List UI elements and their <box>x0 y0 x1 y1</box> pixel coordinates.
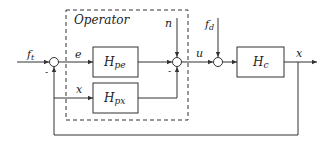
sum2-minus-sign: - <box>168 66 171 76</box>
summing-junction-2 <box>173 58 182 67</box>
sum1-minus-sign: - <box>45 67 48 77</box>
signal-x-input-label: x <box>76 83 83 96</box>
signal-x-output-label: x <box>296 47 303 60</box>
signal-fd-label: fd <box>204 18 214 32</box>
summing-junction-3 <box>214 58 223 67</box>
signal-e-label: e <box>75 48 82 61</box>
block-diagram: Operator ft - e Hpe - x Hpx n u fd Hc x <box>0 0 333 143</box>
signal-ft-label: ft <box>26 48 35 62</box>
summing-junction-1 <box>50 58 59 67</box>
signal-n-label: n <box>165 17 172 30</box>
signal-u-label: u <box>196 47 203 60</box>
operator-group-label: Operator <box>74 13 131 27</box>
